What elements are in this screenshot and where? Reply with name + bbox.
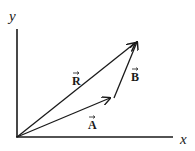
svg-text:R: R xyxy=(72,74,81,88)
vector-a-label: A xyxy=(88,116,97,133)
svg-text:A: A xyxy=(88,118,97,132)
x-axis-label: x xyxy=(179,131,187,147)
svg-text:B: B xyxy=(131,70,139,84)
vector-b-label: B xyxy=(131,68,139,85)
vector-r-label: R xyxy=(72,72,81,89)
vector-diagram: y x R B A xyxy=(0,0,195,151)
y-axis-label: y xyxy=(7,8,16,24)
